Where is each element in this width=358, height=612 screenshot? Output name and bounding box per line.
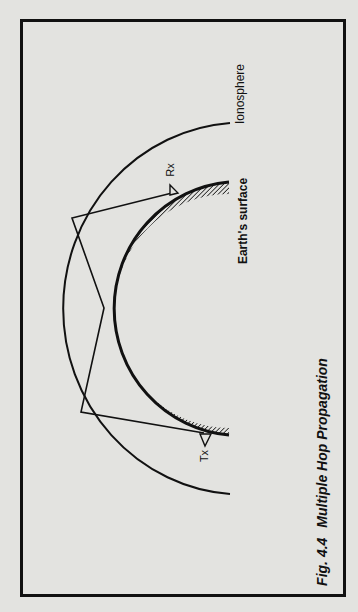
earth-surface-line	[114, 182, 229, 435]
rx-antenna-icon	[170, 185, 178, 195]
earth-surface-label: Earth's surface	[236, 178, 250, 264]
figure-caption: Fig. 4.4Multiple Hop Propagation	[314, 358, 330, 586]
transmitter-label: Tx	[198, 450, 210, 462]
figure-title: Multiple Hop Propagation	[314, 358, 330, 528]
earth-crust-hatch	[114, 182, 229, 435]
multiple-hop-diagram	[0, 0, 358, 612]
tx-antenna-icon	[200, 434, 211, 446]
ray-path	[72, 193, 204, 433]
figure-number: Fig. 4.4	[314, 538, 330, 586]
ionosphere-label: Ionosphere	[233, 64, 247, 124]
receiver-label: Rx	[164, 163, 176, 176]
